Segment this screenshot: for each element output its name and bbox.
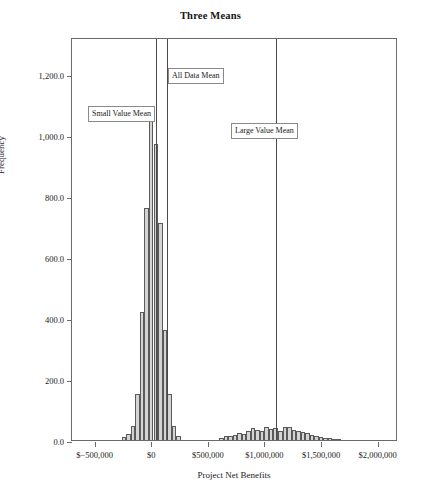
y-tick-mark	[67, 320, 72, 321]
x-tick-mark	[151, 442, 152, 447]
histogram-bars	[72, 39, 396, 440]
y-tick-mark	[67, 442, 72, 443]
y-tick-label: 0.0	[4, 437, 64, 447]
large-value-mean-label: Large Value Mean	[231, 123, 298, 139]
histogram-bar	[176, 436, 181, 440]
y-tick-label: 600.0	[4, 254, 64, 264]
plot-area: Small Value MeanAll Data MeanLarge Value…	[71, 38, 397, 441]
y-tick-label: 200.0	[4, 376, 64, 386]
y-axis-label: Frequency	[0, 95, 6, 215]
y-tick-mark	[67, 76, 72, 77]
y-tick-label: 400.0	[4, 315, 64, 325]
y-tick-label: 1,000.0	[4, 132, 64, 142]
reference-line-all-data-mean	[167, 39, 168, 440]
x-tick-mark	[264, 442, 265, 447]
x-axis-label: Project Net Benefits	[71, 470, 397, 480]
y-tick-mark	[67, 381, 72, 382]
x-tick-mark	[208, 442, 209, 447]
x-tick-label: $2,000,000	[338, 450, 418, 460]
x-tick-mark	[321, 442, 322, 447]
y-tick-mark	[67, 198, 72, 199]
x-tick-mark	[95, 442, 96, 447]
reference-line-large-value-mean	[276, 39, 277, 440]
chart-canvas: Three Means Small Value MeanAll Data Mea…	[0, 0, 421, 501]
y-tick-label: 1,200.0	[4, 71, 64, 81]
all-data-mean-label: All Data Mean	[168, 68, 224, 84]
small-value-mean-label: Small Value Mean	[88, 106, 155, 122]
y-tick-label: 800.0	[4, 193, 64, 203]
chart-title: Three Means	[0, 10, 421, 21]
histogram-bar	[337, 439, 342, 440]
y-tick-mark	[67, 137, 72, 138]
reference-line-small-value-mean	[156, 39, 157, 440]
y-tick-mark	[67, 259, 72, 260]
x-tick-mark	[378, 442, 379, 447]
